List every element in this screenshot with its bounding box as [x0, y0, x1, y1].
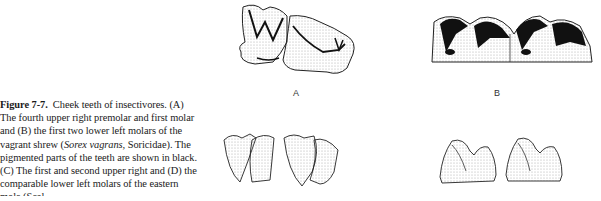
- tooth-illustration-b: [430, 12, 600, 67]
- panel-a-drawing: [235, 2, 375, 82]
- caption-line: The fourth upper right premolar and firs…: [0, 111, 222, 124]
- tooth-illustration-a: [235, 2, 375, 82]
- figure-label: Figure 7-7.: [0, 99, 48, 110]
- caption-line-cutoff: mole (Scal...: [0, 190, 222, 196]
- panel-b-drawing: [430, 12, 600, 67]
- tooth-illustration-d: [438, 135, 568, 185]
- figure-caption: Figure 7-7. Cheek teeth of insectivores.…: [0, 98, 222, 196]
- caption-line: and (B) the first two lower left molars …: [0, 124, 222, 137]
- panel-d-drawing: [438, 135, 568, 185]
- tooth-illustration-c: [222, 132, 347, 187]
- panel-b-label: B: [494, 88, 500, 98]
- panel-c-drawing: [222, 132, 347, 187]
- caption-title: Cheek teeth of insectivores. (A): [53, 99, 184, 110]
- panel-a-label: A: [293, 88, 299, 98]
- caption-line: pigmented parts of the teeth are shown i…: [0, 151, 222, 164]
- caption-line: vagrant shrew (Sorex vagrans, Soricidae)…: [0, 138, 222, 151]
- caption-line: comparable lower left molars of the east…: [0, 177, 222, 190]
- caption-line: (C) The first and second upper right and…: [0, 164, 222, 177]
